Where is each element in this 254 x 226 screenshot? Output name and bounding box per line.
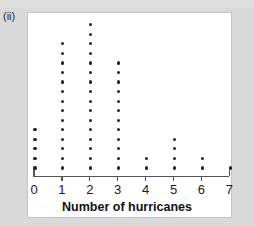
dot-marker <box>89 90 92 93</box>
dot-marker <box>173 157 176 160</box>
x-axis-tick <box>33 170 34 176</box>
dot-marker <box>117 147 120 150</box>
dot-marker <box>117 128 120 131</box>
dot-marker <box>117 80 120 83</box>
x-axis-tick <box>229 170 230 176</box>
dot-marker <box>89 52 92 55</box>
figure-root: (ii) 01234567 Number of hurricanes <box>0 0 254 226</box>
dot-marker <box>61 90 64 93</box>
x-axis-tick-label: 5 <box>166 182 182 197</box>
dot-marker <box>117 100 120 103</box>
dot-marker <box>117 90 120 93</box>
dot-marker <box>89 166 92 169</box>
x-axis-tick <box>61 176 62 181</box>
figure-part-label: (ii) <box>3 10 15 22</box>
x-axis-tick-label: 4 <box>138 182 154 197</box>
dot-marker <box>201 157 204 160</box>
x-axis-tick <box>173 176 174 181</box>
dot-marker <box>117 61 120 64</box>
dot-marker <box>145 157 148 160</box>
dot-marker <box>61 80 64 83</box>
dot-marker <box>61 71 64 74</box>
x-axis-tick-label: 2 <box>82 182 98 197</box>
x-axis-tick-label: 3 <box>110 182 126 197</box>
dot-marker <box>89 61 92 64</box>
x-axis-tick-label: 7 <box>221 182 237 197</box>
dot-marker <box>173 147 176 150</box>
dot-marker <box>61 100 64 103</box>
dot-marker <box>61 147 64 150</box>
dot-marker <box>61 166 64 169</box>
dot-marker <box>89 71 92 74</box>
dot-marker <box>89 42 92 45</box>
dot-marker <box>201 166 204 169</box>
x-axis-tick-label: 0 <box>26 182 42 197</box>
dot-marker <box>173 138 176 141</box>
dot-marker <box>33 128 36 131</box>
dot-marker <box>61 109 64 112</box>
dot-marker <box>117 157 120 160</box>
dot-marker <box>89 157 92 160</box>
dot-marker <box>117 71 120 74</box>
x-axis-title: Number of hurricanes <box>0 200 254 214</box>
dot-marker <box>89 147 92 150</box>
dot-marker <box>89 80 92 83</box>
x-axis-tick <box>201 176 202 181</box>
dot-marker <box>33 138 36 141</box>
dot-marker <box>145 166 148 169</box>
dot-marker <box>117 166 120 169</box>
dot-marker <box>89 23 92 26</box>
dot-marker <box>89 128 92 131</box>
dot-marker <box>33 147 36 150</box>
x-axis-tick-label: 6 <box>193 182 209 197</box>
dot-marker <box>117 119 120 122</box>
dot-marker <box>89 100 92 103</box>
dot-marker <box>89 33 92 36</box>
dot-marker <box>61 119 64 122</box>
dot-marker <box>61 52 64 55</box>
page-top-band <box>0 0 254 8</box>
dot-marker <box>173 166 176 169</box>
x-axis-tick <box>145 176 146 181</box>
x-axis-tick-label: 1 <box>54 182 70 197</box>
dot-marker <box>89 109 92 112</box>
x-axis-tick <box>117 176 118 181</box>
dot-marker <box>61 157 64 160</box>
dot-marker <box>89 119 92 122</box>
dot-marker <box>61 61 64 64</box>
dot-marker <box>89 138 92 141</box>
dot-marker <box>33 157 36 160</box>
dot-marker <box>61 128 64 131</box>
dot-marker <box>117 138 120 141</box>
dot-marker <box>61 138 64 141</box>
dot-marker <box>61 42 64 45</box>
x-axis-tick <box>89 176 90 181</box>
dot-marker <box>117 109 120 112</box>
